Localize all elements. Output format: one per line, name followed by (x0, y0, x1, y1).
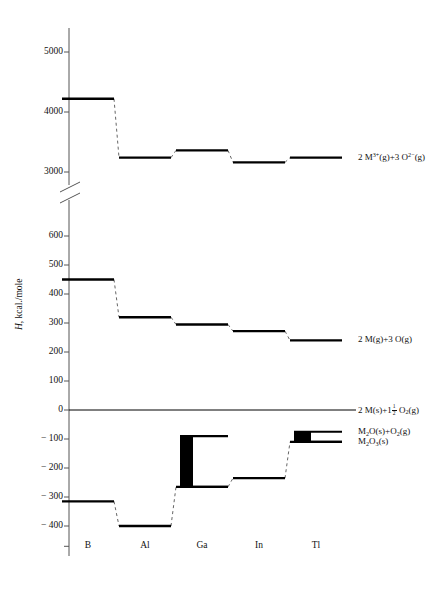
connector-4-3 (285, 442, 290, 478)
ytick-0-label: 0 (18, 404, 63, 414)
y-axis-title: H, kcal./mole (14, 279, 24, 330)
ytick-4000-label: 4000 (18, 106, 63, 116)
ytick-600-label: 600 (18, 230, 63, 240)
bar-Ga (180, 436, 193, 487)
element-label-Tl: Tl (296, 540, 336, 550)
connector-4-0 (114, 501, 119, 526)
connector-1-0 (114, 280, 119, 318)
ytick-200-label: 200 (18, 346, 63, 356)
connector-1-2 (228, 324, 233, 331)
connector-4-2 (228, 478, 233, 487)
ytick-500-label: 500 (18, 259, 63, 269)
series-label-0: 2 M3+(g)+3 O2−(g) (358, 152, 425, 162)
series-label-1: 2 M(g)+3 O(g) (358, 334, 412, 344)
ytick-5000-label: 5000 (18, 46, 63, 56)
bar-Tl (294, 432, 311, 442)
series-label-3: M2O(s)+O2(g) (358, 426, 410, 437)
ytick-100-label: 100 (18, 375, 63, 385)
connector-1-1 (171, 317, 176, 324)
connector-0-2 (228, 150, 233, 162)
ytick-3000-label: 3000 (18, 166, 63, 176)
connector-4-1 (171, 487, 176, 526)
ytick--300-label: − 300 (18, 491, 63, 501)
enthalpy-diagram (0, 0, 438, 592)
connector-1-3 (285, 331, 290, 340)
ytick--200-label: − 200 (18, 462, 63, 472)
series-label-4: M2O3(s) (358, 436, 388, 447)
element-label-Al: Al (125, 540, 165, 550)
axis-break-slash-top (60, 182, 80, 192)
axis-break-slash-bottom (60, 193, 80, 203)
connector-0-0 (114, 99, 119, 158)
ytick--400-label: − 400 (18, 520, 63, 530)
series-label-2: 2 M(s)+112 O2(g) (358, 404, 419, 416)
connector-0-1 (171, 150, 176, 157)
ytick--100-label: − 100 (18, 433, 63, 443)
element-label-In: In (239, 540, 279, 550)
ytick-300-label: 300 (18, 317, 63, 327)
element-label-B: B (68, 540, 108, 550)
ytick-400-label: 400 (18, 288, 63, 298)
element-label-Ga: Ga (182, 540, 222, 550)
connector-0-3 (285, 158, 290, 163)
